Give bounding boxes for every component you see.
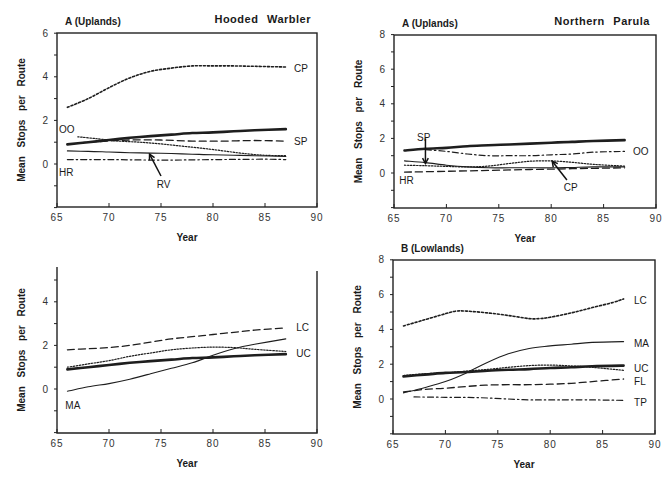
series-line-hr (67, 159, 285, 160)
series-label: CP (564, 182, 578, 193)
y-tick-label: 2 (379, 133, 386, 144)
plot-frame (394, 35, 656, 208)
x-axis-title: Year (176, 232, 197, 243)
chart-title: Hooded Warbler (214, 13, 311, 25)
x-tick-label: 85 (258, 438, 271, 449)
x-axis-title: Year (176, 458, 197, 469)
y-tick-label: 4 (378, 324, 385, 335)
series-label: HR (59, 167, 73, 178)
arrow-icon (150, 154, 161, 176)
x-tick-label: 85 (596, 439, 609, 450)
x-axis-title: Year (514, 233, 535, 244)
series-label: OO (633, 146, 649, 157)
series-label: CP (294, 63, 308, 74)
series-label: LC (296, 322, 309, 333)
x-tick-label: 70 (102, 438, 115, 449)
series-line-tp (414, 397, 624, 401)
plot-frame (57, 267, 317, 433)
x-tick-label: 75 (154, 438, 167, 449)
x-tick-label: 80 (206, 438, 219, 449)
x-tick-label: 75 (491, 439, 504, 450)
arrow-icon (552, 161, 567, 180)
series-line-bold (67, 129, 285, 144)
y-tick-label: 2 (378, 359, 385, 370)
y-tick-label: 0 (378, 394, 385, 405)
chart-canvas: 0246657075808590YearMean Stops per Route… (0, 0, 665, 489)
x-tick-label: 85 (597, 213, 610, 224)
x-tick-label: 80 (206, 212, 219, 223)
plot-frame (57, 33, 317, 207)
y-tick-label: 6 (378, 289, 385, 300)
figure: 0246657075808590YearMean Stops per Route… (0, 0, 665, 489)
y-axis-title: Mean Stops per Route (353, 59, 364, 183)
panel-label: A (Uplands) (402, 18, 458, 29)
series-line-oo (78, 137, 286, 156)
y-tick-label: 6 (379, 64, 386, 75)
panel-p3: 024657075808590YearMean Stops per RouteL… (16, 267, 324, 469)
series-label: SP (294, 136, 308, 147)
x-tick-label: 70 (102, 212, 115, 223)
series-label: TP (634, 397, 647, 408)
y-tick-label: 2 (42, 115, 49, 126)
y-axis-title: Mean Stops per Route (16, 288, 27, 412)
y-tick-label: 0 (42, 159, 49, 170)
series-label: FL (634, 376, 646, 387)
series-label: RV (157, 179, 171, 190)
series-line-bold (404, 366, 624, 377)
y-tick-label: 8 (379, 29, 386, 40)
series-label: OO (59, 124, 75, 135)
series-label: LC (634, 295, 647, 306)
y-axis-title: Mean Stops per Route (352, 285, 363, 409)
series-label: HR (399, 175, 413, 186)
x-tick-label: 90 (310, 438, 323, 449)
panel-p1: 0246657075808590YearMean Stops per Route… (16, 13, 324, 243)
x-tick-label: 65 (50, 212, 63, 223)
x-tick-label: 80 (545, 213, 558, 224)
panel-label: A (Uplands) (65, 16, 121, 27)
x-tick-label: 65 (387, 213, 400, 224)
x-tick-label: 65 (386, 439, 399, 450)
panel-p2: 02468657075808590YearMean Stops per Rout… (353, 15, 663, 244)
x-tick-label: 90 (649, 213, 662, 224)
series-line-cp (67, 66, 285, 108)
x-tick-label: 75 (154, 212, 167, 223)
y-tick-label: 0 (42, 384, 49, 395)
x-tick-label: 80 (544, 439, 557, 450)
series-line-lc (67, 328, 285, 350)
x-tick-label: 90 (310, 212, 323, 223)
y-tick-label: 4 (42, 296, 49, 307)
panel-p4: 02468657075808590YearMean Stops per Rout… (352, 243, 662, 470)
series-line-lc (404, 299, 624, 326)
panel-label: B (Lowlands) (401, 243, 464, 254)
y-tick-label: 4 (42, 71, 49, 82)
series-label: UC (296, 348, 310, 359)
y-tick-label: 2 (42, 340, 49, 351)
x-axis-title: Year (513, 459, 534, 470)
series-line-fl (404, 379, 624, 392)
x-tick-label: 90 (648, 439, 661, 450)
series-label: MA (65, 400, 80, 411)
series-line-rv (67, 151, 285, 157)
x-tick-label: 70 (439, 439, 452, 450)
x-tick-label: 75 (492, 213, 505, 224)
y-tick-label: 8 (378, 254, 385, 265)
series-line-bold (405, 140, 625, 150)
x-tick-label: 70 (440, 213, 453, 224)
series-label: SP (417, 132, 431, 143)
x-tick-label: 85 (258, 212, 271, 223)
series-line-oo (425, 150, 624, 156)
y-tick-label: 0 (379, 168, 386, 179)
y-tick-label: 4 (379, 98, 386, 109)
y-axis-title: Mean Stops per Route (16, 58, 27, 182)
chart-title: Northern Parula (554, 15, 650, 27)
series-label: UC (634, 363, 648, 374)
series-line-uc (67, 347, 285, 367)
plot-frame (393, 260, 655, 434)
x-tick-label: 65 (50, 438, 63, 449)
series-label: MA (634, 338, 649, 349)
y-tick-label: 6 (42, 28, 49, 39)
series-line-hr (405, 168, 625, 172)
